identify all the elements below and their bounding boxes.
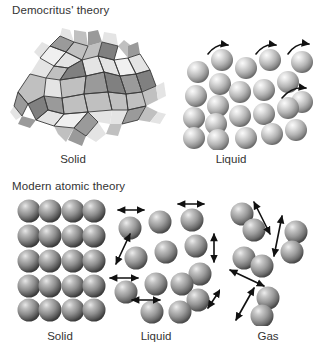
sphere-group: [115, 209, 212, 324]
panel-modern-solid: [16, 198, 112, 324]
section-title-modern: Modern atomic theory: [12, 180, 125, 192]
liquid-spheres-illustration: [178, 32, 318, 150]
gas-molecules-illustration: [228, 196, 318, 326]
label-modern-solid: Solid: [34, 330, 86, 342]
panel-democritus-solid: .fL { fill:#e4e4e4; } .fM { fill:#c0c0c0…: [8, 22, 168, 150]
double-arrow-7: [208, 290, 220, 308]
solid-lattice-illustration: [16, 198, 112, 324]
atomic-theory-figure: Democritus' theory Modern atomic theory …: [0, 0, 320, 351]
panel-modern-liquid: [108, 196, 220, 326]
label-modern-gas: Gas: [248, 330, 288, 342]
sphere-lattice: [18, 200, 106, 322]
panel-democritus-liquid: [178, 32, 318, 150]
sphere-group: [183, 49, 313, 150]
liquid-vibration-illustration: [108, 196, 220, 326]
polyhedra-cluster-illustration: .fL { fill:#e4e4e4; } .fM { fill:#c0c0c0…: [8, 22, 168, 150]
label-modern-liquid: Liquid: [130, 330, 182, 342]
panel-modern-gas: [228, 196, 318, 326]
label-democritus-solid: Solid: [47, 153, 99, 165]
sphere-pair-group: [231, 203, 308, 327]
label-democritus-liquid: Liquid: [205, 153, 257, 165]
section-title-democritus: Democritus' theory: [12, 4, 109, 16]
